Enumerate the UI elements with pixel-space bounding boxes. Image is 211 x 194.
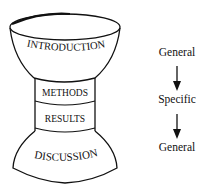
methods-results-divider: [35, 101, 95, 105]
label-discussion: DISCUSSION: [34, 146, 99, 163]
flow-step-general-bottom: General: [142, 141, 211, 153]
flow-step-specific: Specific: [142, 93, 211, 105]
down-arrow-icon: [173, 114, 181, 139]
flow-step-general-top: General: [142, 46, 211, 58]
down-arrow-icon: [173, 66, 181, 91]
hourglass-diagram: INTRODUCTION METHODS RESULTS DISCUSSION …: [0, 0, 211, 194]
label-methods: METHODS: [42, 88, 88, 98]
label-results: RESULTS: [45, 114, 85, 124]
